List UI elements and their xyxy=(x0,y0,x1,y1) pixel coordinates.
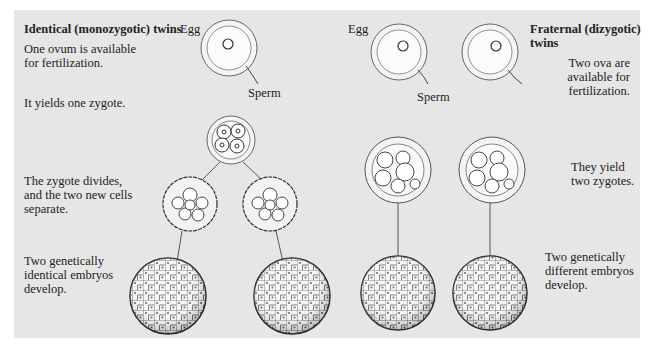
zygote-icon-right-b xyxy=(459,137,525,203)
fraternal-step-2: They yield two zygotes. xyxy=(571,160,634,188)
egg-label-left: Egg xyxy=(180,22,200,36)
zygote-icon-right-a xyxy=(365,137,431,203)
cell-cluster-icon-left-a xyxy=(163,177,217,231)
identical-twins-title: Identical (monozygotic) twins xyxy=(24,22,182,36)
embryo-icon-left-b xyxy=(254,258,330,334)
egg-icon-left xyxy=(201,20,258,84)
identical-step-3: The zygote divides, and the two new cell… xyxy=(24,174,132,216)
embryo-icon-left-a xyxy=(130,258,206,334)
identical-step-2: It yields one zygote. xyxy=(24,96,125,110)
egg-icon-right-a xyxy=(371,24,428,84)
fraternal-twins-title: Fraternal (dizygotic) twins xyxy=(530,22,641,50)
sperm-label-right: Sperm xyxy=(417,90,450,104)
egg-label-right: Egg xyxy=(348,22,368,36)
sperm-icon xyxy=(418,70,428,84)
fraternal-step-1: Two ova are available for fertilization. xyxy=(540,56,630,98)
cell-cluster-icon-left-b xyxy=(243,177,297,231)
identical-step-1: One ovum is available for fertilization. xyxy=(24,42,136,70)
egg-icon-right-b xyxy=(462,24,522,84)
zygote-icon-left xyxy=(207,116,255,164)
identical-step-4: Two genetically identical embryos develo… xyxy=(24,254,113,296)
embryo-icon-right-b xyxy=(453,256,527,330)
embryo-icon-right-a xyxy=(361,256,435,330)
fraternal-step-4: Two genetically different embryos develo… xyxy=(545,250,634,292)
sperm-icon xyxy=(246,66,258,84)
sperm-label-left: Sperm xyxy=(248,86,281,100)
sperm-icon xyxy=(508,70,522,84)
